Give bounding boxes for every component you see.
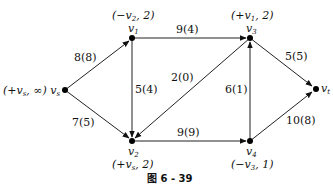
edge-label-v3-vt: 5(5): [285, 50, 308, 63]
vt-name: vt: [321, 82, 330, 96]
v2-name: v2: [128, 145, 139, 159]
edge-vs-v1: [65, 41, 129, 90]
edge-label-v1-v3: 9(4): [176, 23, 199, 36]
v4-mark-label: (−v3, 1): [231, 158, 274, 172]
edge-vs-v2: [65, 90, 129, 138]
v2-mark-label: (+vs, 2): [112, 158, 154, 172]
v3-mark-label: (+v1, 2): [231, 9, 274, 23]
edge-label-vs-v2: 7(5): [72, 116, 95, 129]
node-vt: [313, 86, 319, 92]
edge-label-v4-v3: 6(1): [225, 83, 248, 96]
v4-name: v4: [246, 145, 257, 159]
v1-name: v1: [128, 22, 139, 36]
edge-label-v4-vt: 10(8): [286, 114, 316, 127]
node-v2: [129, 138, 135, 144]
edge-label-v2-v4: 9(9): [177, 126, 200, 139]
node-vs: [62, 87, 68, 93]
v3-name: v3: [246, 22, 257, 36]
flow-network-diagram: (+vs, ∞) vs (−v2, 2) v1 (+v1, 2) v3 vt v…: [0, 0, 333, 187]
edge-label-v3-v2: 2(0): [171, 71, 194, 84]
node-v4: [247, 138, 253, 144]
v1-mark-label: (−v2, 2): [112, 9, 155, 23]
vs-label: (+vs, ∞) vs: [3, 84, 61, 98]
edge-label-v1-v2: 5(4): [135, 83, 158, 96]
figure-caption: 图 6 - 39: [147, 173, 193, 184]
edge-label-vs-v1: 8(8): [74, 51, 97, 64]
